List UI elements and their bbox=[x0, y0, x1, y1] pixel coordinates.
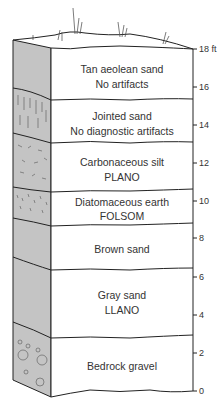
tick-label-6: 6 bbox=[199, 272, 204, 282]
tick-label-14: 14 bbox=[199, 120, 209, 130]
tick-label-12: 12 bbox=[199, 158, 209, 168]
layer-1-artifacts: No artifacts bbox=[95, 78, 148, 90]
tick-label-2: 2 bbox=[199, 348, 204, 358]
layer-4-culture: FOLSOM bbox=[100, 210, 144, 222]
stratigraphic-column-diagram: 18 ft 16 14 12 10 8 6 4 2 0 Tan aeolean … bbox=[0, 0, 223, 407]
layer-1-name: Tan aeolean sand bbox=[81, 63, 164, 75]
tick-label-16: 16 bbox=[199, 82, 209, 92]
layer-2-artifacts: No diagnostic artifacts bbox=[70, 125, 173, 137]
tick-label-18: 18 ft bbox=[199, 44, 217, 54]
ground-surface bbox=[13, 8, 193, 49]
layer-5-name: Brown sand bbox=[94, 243, 150, 255]
tick-label-0: 0 bbox=[199, 386, 204, 396]
layer-3-culture: PLANO bbox=[104, 171, 140, 183]
layer-6-culture: LLANO bbox=[105, 304, 139, 316]
layer-7-name: Bedrock gravel bbox=[87, 360, 157, 372]
tick-label-10: 10 bbox=[199, 196, 209, 206]
tick-label-8: 8 bbox=[199, 233, 204, 243]
tick-label-4: 4 bbox=[199, 310, 204, 320]
layer-4-name: Diatomaceous earth bbox=[75, 196, 169, 208]
depth-scale bbox=[193, 49, 197, 391]
layer-2-name: Jointed sand bbox=[92, 110, 152, 122]
layer-3-name: Carbonaceous silt bbox=[80, 156, 164, 168]
layer-6-name: Gray sand bbox=[98, 289, 147, 301]
